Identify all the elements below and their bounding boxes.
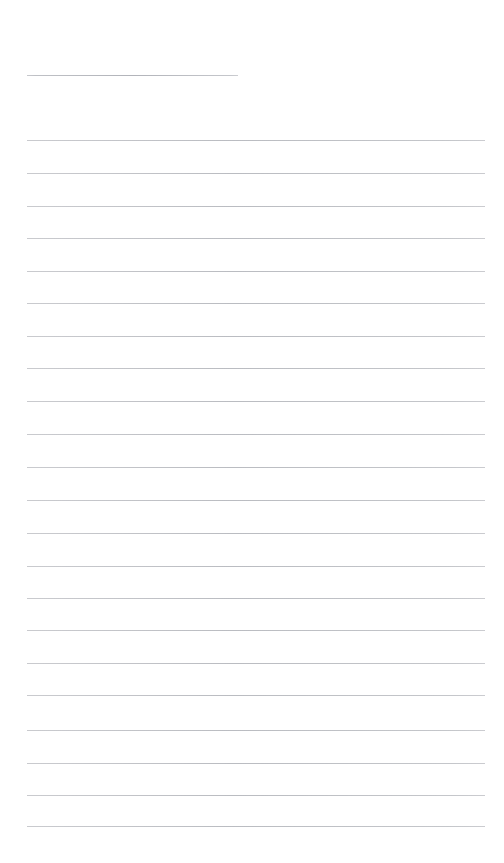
line-text[interactable] bbox=[27, 443, 485, 469]
title-text[interactable] bbox=[27, 44, 238, 70]
line-text[interactable] bbox=[27, 377, 485, 403]
line-text[interactable] bbox=[27, 771, 485, 797]
line-text[interactable] bbox=[27, 542, 485, 568]
line-text[interactable] bbox=[27, 509, 485, 535]
line-text[interactable] bbox=[27, 312, 485, 338]
line-text[interactable] bbox=[27, 279, 485, 305]
line-text[interactable] bbox=[27, 639, 485, 665]
line-text[interactable] bbox=[27, 344, 485, 370]
document-page bbox=[0, 0, 504, 863]
line-text[interactable] bbox=[27, 739, 485, 765]
line-text[interactable] bbox=[27, 214, 485, 240]
line-text[interactable] bbox=[27, 149, 485, 175]
line-text[interactable] bbox=[27, 247, 485, 273]
line-text[interactable] bbox=[27, 410, 485, 436]
line-text[interactable] bbox=[27, 671, 485, 697]
line-text[interactable] bbox=[27, 476, 485, 502]
line-text[interactable] bbox=[27, 574, 485, 600]
line-text[interactable] bbox=[27, 116, 485, 142]
line-text[interactable] bbox=[27, 182, 485, 208]
title-underline-rule bbox=[27, 75, 238, 76]
line-text[interactable] bbox=[27, 606, 485, 632]
line-text[interactable] bbox=[27, 802, 485, 828]
line-text[interactable] bbox=[27, 706, 485, 732]
